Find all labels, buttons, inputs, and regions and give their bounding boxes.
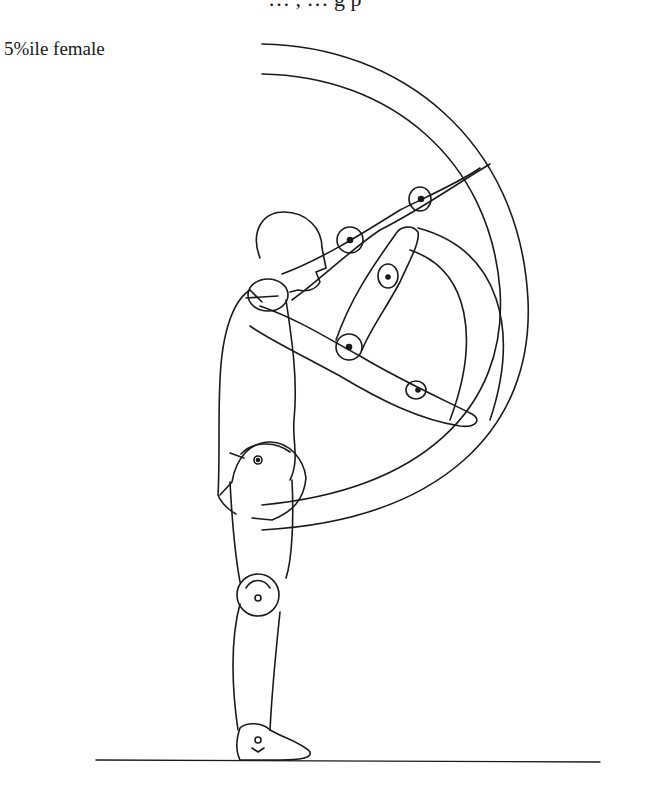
- raised-arm: [282, 164, 490, 300]
- reach-arcs: [262, 44, 528, 530]
- bent-forearm: [336, 227, 418, 350]
- extended-arm: [250, 306, 477, 426]
- reach-diagram: [0, 0, 650, 785]
- floor-line: [96, 760, 600, 762]
- head: [256, 212, 326, 292]
- leg: [230, 480, 310, 760]
- torso: [218, 279, 295, 514]
